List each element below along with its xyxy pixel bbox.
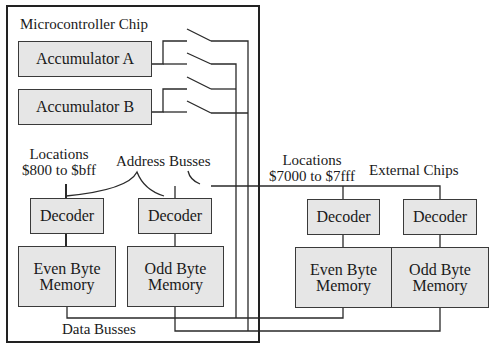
external-even-byte-memory: Even Byte Memory	[295, 247, 392, 308]
internal-even-byte-memory: Even Byte Memory	[18, 246, 116, 307]
chip-title: Microcontroller Chip	[20, 16, 148, 32]
external-chips-label: External Chips	[369, 162, 459, 178]
data-busses-label: Data Busses	[62, 321, 136, 337]
address-busses-label: Address Busses	[116, 153, 211, 169]
external-decoder-odd: Decoder	[403, 199, 477, 235]
accumulator-a: Accumulator A	[18, 41, 152, 77]
internal-decoder-even: Decoder	[30, 198, 104, 234]
internal-odd-byte-memory: Odd Byte Memory	[127, 246, 224, 307]
external-decoder-even: Decoder	[307, 199, 380, 235]
internal-decoder-odd: Decoder	[138, 198, 212, 234]
external-locations-label: Locations $7000 to $7fff	[264, 152, 360, 184]
accumulator-b: Accumulator B	[18, 89, 152, 125]
external-odd-byte-memory: Odd Byte Memory	[391, 247, 489, 308]
internal-locations-label: Locations $800 to $bff	[18, 146, 100, 178]
